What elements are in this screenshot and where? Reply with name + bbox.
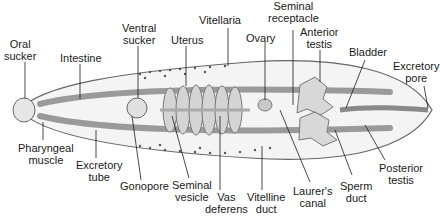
fluke-illustration bbox=[0, 0, 440, 222]
label-pharyngeal-muscle: Pharyngeal muscle bbox=[18, 142, 74, 166]
label-vitellaria: Vitellaria bbox=[199, 14, 241, 26]
label-posterior-testis: Posterior testis bbox=[379, 162, 423, 186]
label-laurers-canal: Laurer's canal bbox=[293, 185, 332, 209]
label-excretory-tube: Excretory tube bbox=[76, 159, 122, 183]
label-excretory-pore: Excretory pore bbox=[393, 60, 439, 84]
oral-sucker-shape bbox=[13, 98, 35, 122]
label-gonopore: Gonopore bbox=[120, 180, 169, 192]
label-seminal-receptacle: Seminal receptacle bbox=[268, 0, 319, 24]
ventral-sucker-shape bbox=[127, 98, 147, 118]
label-ovary: Ovary bbox=[246, 32, 275, 44]
ovary-shape bbox=[258, 99, 272, 111]
label-ventral-sucker: Ventral sucker bbox=[122, 22, 156, 46]
trematode-diagram: Oral sucker Intestine Ventral sucker Ute… bbox=[0, 0, 440, 222]
label-vitelline-duct: Vitelline duct bbox=[247, 191, 285, 215]
label-anterior-testis: Anterior testis bbox=[300, 26, 339, 50]
bladder-shape bbox=[340, 108, 428, 110]
label-vas-deferens: Vas deferens bbox=[205, 191, 248, 215]
label-intestine: Intestine bbox=[60, 52, 102, 64]
label-oral-sucker: Oral sucker bbox=[4, 38, 36, 62]
label-bladder: Bladder bbox=[349, 46, 387, 58]
label-sperm-duct: Sperm duct bbox=[340, 180, 372, 204]
label-uterus: Uterus bbox=[171, 34, 203, 46]
